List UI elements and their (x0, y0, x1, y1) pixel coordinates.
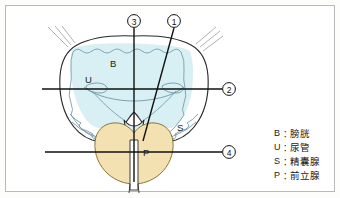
callout-label-3: 3 (132, 17, 137, 27)
figure-page: B U S P 3 1 2 4 B ： 膀胱 (0, 0, 340, 198)
legend-separator: ： (283, 127, 290, 140)
callout-label-1: 1 (172, 17, 177, 27)
organ-label-U: U (85, 74, 92, 85)
legend-term-ureter: 尿管 (290, 140, 310, 154)
callout-label-4: 4 (227, 148, 232, 158)
legend-key-U: U (274, 142, 283, 152)
callout-marker-4[interactable]: 4 (223, 146, 236, 159)
callout-label-2: 2 (227, 85, 232, 95)
organ-label-B: B (110, 58, 116, 69)
callout-marker-1[interactable]: 1 (168, 15, 181, 28)
ligament-fringe-right (196, 27, 223, 51)
legend-key-S: S (274, 156, 283, 166)
legend-separator: ： (283, 169, 290, 182)
bladder-lumen-fill (71, 43, 193, 128)
legend-item-prostate: P ： 前立腺 (274, 168, 332, 182)
legend-separator: ： (283, 155, 290, 168)
legend-item-seminal-vesicle: S ： 精囊腺 (274, 154, 332, 168)
callout-marker-3[interactable]: 3 (128, 15, 141, 28)
ligament-fringe-left (48, 26, 75, 47)
legend-key-P: P (274, 170, 283, 180)
legend-term-seminal-vesicle: 精囊腺 (290, 154, 320, 168)
legend-separator: ： (283, 141, 290, 154)
legend-item-ureter: U ： 尿管 (274, 140, 332, 154)
legend-item-bladder: B ： 膀胱 (274, 126, 332, 140)
legend-term-prostate: 前立腺 (290, 168, 320, 182)
callout-marker-2[interactable]: 2 (223, 83, 236, 96)
legend: B ： 膀胱 U ： 尿管 S ： 精囊腺 P ： 前立腺 (274, 126, 332, 182)
legend-term-bladder: 膀胱 (290, 126, 310, 140)
legend-key-B: B (274, 128, 283, 138)
organ-label-S: S (177, 122, 183, 133)
organ-label-P: P (143, 147, 149, 158)
